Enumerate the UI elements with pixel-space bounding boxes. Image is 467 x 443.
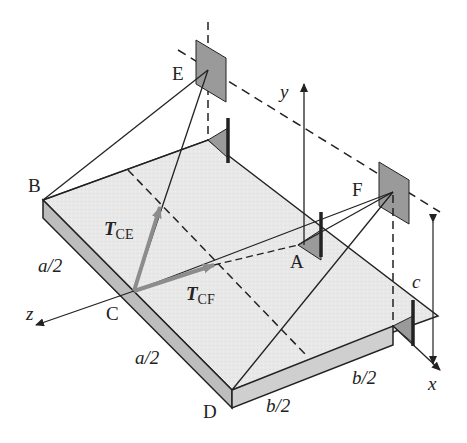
cable-top-right-edge <box>298 192 393 245</box>
plate-cable-diagram: E B F A C D y x z a/2 a/2 b/2 b/2 c TCE … <box>0 0 467 443</box>
label-D: D <box>203 401 217 422</box>
label-F: F <box>352 179 363 200</box>
label-C: C <box>106 303 119 324</box>
force-TCF-subscript: CF <box>198 292 215 307</box>
label-axis-y: y <box>278 81 289 102</box>
label-a-half-upper: a/2 <box>38 255 63 276</box>
label-axis-x: x <box>427 373 437 394</box>
label-b-half-right: b/2 <box>352 367 377 388</box>
label-b-half-left: b/2 <box>266 395 291 416</box>
label-a-half-lower: a/2 <box>135 347 160 368</box>
label-axis-z: z <box>25 303 34 324</box>
label-c: c <box>412 271 421 292</box>
label-A: A <box>290 251 304 272</box>
force-TCE-subscript: CE <box>116 227 134 242</box>
label-E: E <box>172 63 184 84</box>
z-axis <box>36 291 134 325</box>
wall-plate-F <box>379 162 409 224</box>
label-B: B <box>28 175 41 196</box>
